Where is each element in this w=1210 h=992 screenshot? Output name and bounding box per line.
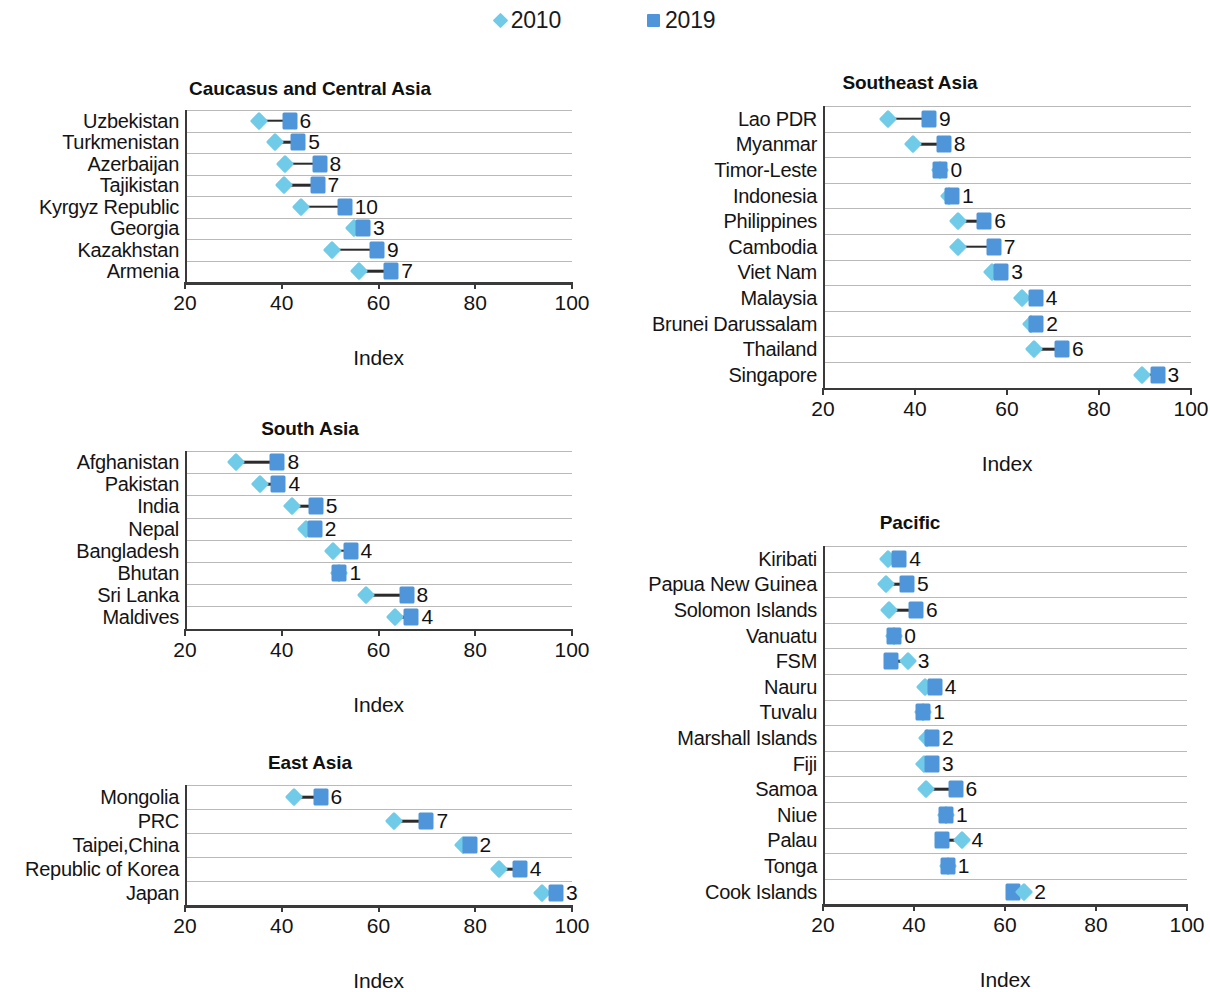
marker-2019 (337, 198, 352, 215)
point-value-label: 6 (331, 786, 343, 807)
marker-2019 (916, 704, 931, 721)
axis-tick (281, 282, 283, 289)
marker-2019 (312, 155, 327, 172)
point-value-label: 1 (962, 185, 974, 206)
category-axis: MongoliaPRCTaipei,ChinaRepublic of Korea… (30, 785, 185, 905)
data-row: 7 (187, 261, 572, 283)
axis-tick (474, 629, 476, 636)
marker-2010 (879, 110, 897, 128)
category-label: Fiji (625, 751, 823, 777)
plot-area: 98016734263 (823, 106, 1191, 388)
plot-area: 45603412361412 (823, 546, 1187, 904)
category-label: Indonesia (625, 183, 823, 209)
marker-2019 (939, 806, 954, 823)
data-row: 3 (825, 362, 1191, 388)
category-label: Sri Lanka (30, 584, 185, 606)
axis-tick-label: 100 (554, 638, 589, 662)
marker-2010 (949, 238, 967, 256)
plot-area: 84524184 (185, 451, 572, 629)
panel-south-asia: South AsiaAfghanistanPakistanIndiaNepalB… (30, 418, 590, 717)
data-row: 3 (187, 218, 572, 240)
point-value-label: 6 (300, 110, 312, 131)
category-label: Tonga (625, 853, 823, 879)
marker-2019 (332, 565, 347, 582)
category-label: Cambodia (625, 234, 823, 260)
axis-tick (914, 388, 916, 395)
chart-legend: 2010 2019 (0, 0, 1210, 40)
axis-tick (378, 282, 380, 289)
marker-2010 (904, 135, 922, 153)
axis-tick-label: 80 (464, 291, 487, 315)
data-row: 3 (825, 260, 1191, 286)
marker-2010 (385, 608, 403, 626)
category-label: Mongolia (30, 785, 185, 809)
point-value-label: 0 (950, 159, 962, 180)
point-value-label: 5 (326, 496, 338, 517)
marker-2019 (307, 520, 322, 537)
point-value-label: 7 (401, 260, 413, 281)
category-label: Viet Nam (625, 260, 823, 286)
axis-tick (281, 629, 283, 636)
panel-title: Pacific (625, 512, 1195, 534)
axis-tick (184, 629, 186, 636)
point-value-label: 7 (328, 174, 340, 195)
axis-tick (378, 905, 380, 912)
point-value-label: 5 (308, 131, 320, 152)
point-value-label: 8 (417, 584, 429, 605)
axis-tick-label: 20 (811, 913, 834, 937)
legend-item-2019: 2019 (647, 7, 715, 34)
point-value-label: 5 (917, 573, 929, 594)
category-label: Azerbaijan (30, 153, 185, 175)
data-row: 9 (187, 239, 572, 261)
axis-tick-label: 20 (173, 638, 196, 662)
panel-title: East Asia (30, 752, 590, 774)
data-row: 1 (825, 183, 1191, 209)
marker-2019 (270, 454, 285, 471)
category-label: Kiribati (625, 546, 823, 572)
x-axis: 20406080100Index (185, 629, 572, 717)
data-row: 4 (187, 857, 572, 881)
marker-2019 (994, 264, 1009, 281)
panel-title: Caucasus and Central Asia (30, 78, 590, 100)
data-row: 4 (187, 473, 572, 495)
marker-2010 (323, 241, 341, 259)
data-row: 8 (825, 132, 1191, 158)
data-row: 7 (825, 234, 1191, 260)
plot-wrapper: KiribatiPapua New GuineaSolomon IslandsV… (625, 546, 1195, 904)
panel-title: South Asia (30, 418, 590, 440)
marker-2019 (921, 110, 936, 127)
category-label: Bhutan (30, 562, 185, 584)
point-value-label: 7 (1004, 236, 1016, 257)
marker-2010 (877, 575, 895, 593)
point-value-label: 1 (956, 804, 968, 825)
point-value-label: 8 (954, 133, 966, 154)
marker-2019 (308, 498, 323, 515)
data-row: 10 (187, 196, 572, 218)
marker-2019 (310, 177, 325, 194)
data-row: 0 (825, 157, 1191, 183)
data-row: 1 (825, 700, 1187, 726)
category-label: Tuvalu (625, 700, 823, 726)
data-row: 4 (187, 606, 572, 628)
plot-wrapper: AfghanistanPakistanIndiaNepalBangladeshB… (30, 451, 590, 629)
point-value-label: 8 (287, 451, 299, 472)
marker-2019 (924, 729, 939, 746)
axis-tick-label: 60 (995, 397, 1018, 421)
data-row: 2 (825, 879, 1187, 905)
data-row: 7 (187, 175, 572, 197)
category-label: Timor-Leste (625, 157, 823, 183)
legend-item-2010: 2010 (495, 7, 561, 34)
category-label: Solomon Islands (625, 597, 823, 623)
category-label: Lao PDR (625, 106, 823, 132)
x-axis: 20406080100Index (823, 388, 1191, 476)
marker-2010 (283, 497, 301, 515)
marker-2010 (250, 112, 268, 130)
data-row: 2 (187, 518, 572, 540)
point-value-label: 8 (330, 153, 342, 174)
panel-southeast-asia: Southeast AsiaLao PDRMyanmarTimor-LesteI… (625, 72, 1195, 476)
data-row: 0 (825, 623, 1187, 649)
category-label: Japan (30, 881, 185, 905)
data-row: 4 (187, 540, 572, 562)
data-row: 8 (187, 584, 572, 606)
axis-tick (822, 388, 824, 395)
